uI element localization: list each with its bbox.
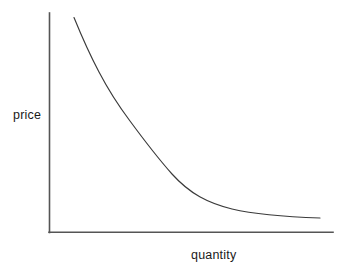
y-axis-label: price (13, 109, 41, 122)
chart-figure: price quantity (0, 0, 353, 270)
demand-curve-plot (0, 0, 353, 270)
demand-curve-path (74, 18, 320, 219)
x-axis-label: quantity (191, 249, 236, 262)
